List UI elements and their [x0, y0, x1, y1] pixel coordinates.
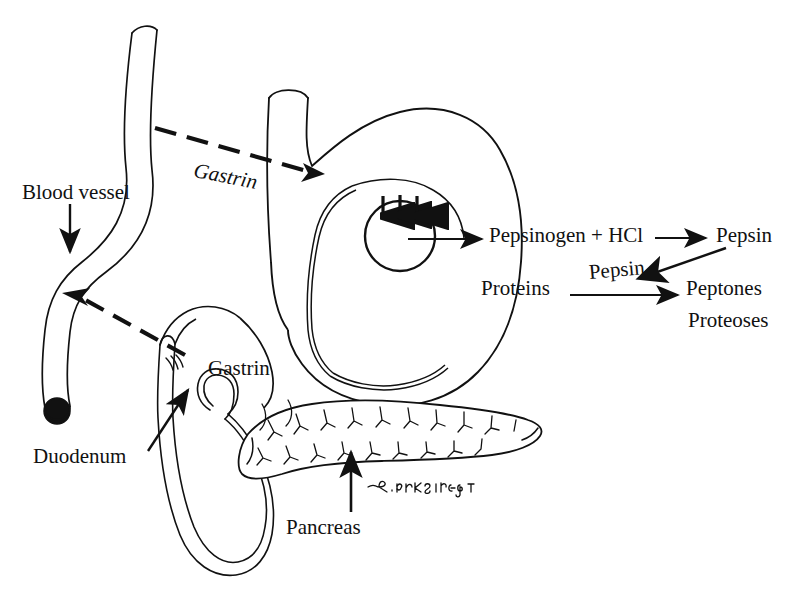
- blood-vessel-shape: [42, 26, 157, 408]
- gastric-gland: [365, 195, 435, 271]
- duodenum-pointer-arrow: [148, 390, 188, 451]
- label-proteoses: Proteoses: [688, 310, 769, 331]
- pepsin-feedback-arrow: [640, 248, 726, 278]
- label-pepsin-product: Pepsin: [716, 225, 772, 246]
- label-pancreas: Pancreas: [286, 517, 361, 538]
- label-proteins: Proteins: [481, 278, 550, 299]
- label-blood-vessel: Blood vessel: [22, 182, 130, 203]
- esophagus-shape: [267, 90, 312, 262]
- label-duodenum: Duodenum: [33, 446, 126, 467]
- artist-signature: [368, 481, 474, 497]
- anatomy-diagram: Blood vessel Duodenum Pancreas Gastrin G…: [0, 0, 790, 613]
- label-pepsin-catalyst: Pepsin: [588, 257, 646, 283]
- gastrin-arrow-to-vessel: [62, 288, 185, 355]
- anatomy-illustration: [0, 0, 790, 613]
- label-gastrin-lower: Gastrin: [208, 358, 270, 379]
- label-pepsinogen-hcl: Pepsinogen + HCl: [489, 225, 643, 246]
- stomach-inner-lining: [307, 179, 464, 390]
- pancreas-shape: [239, 400, 542, 479]
- label-peptones: Peptones: [686, 278, 762, 299]
